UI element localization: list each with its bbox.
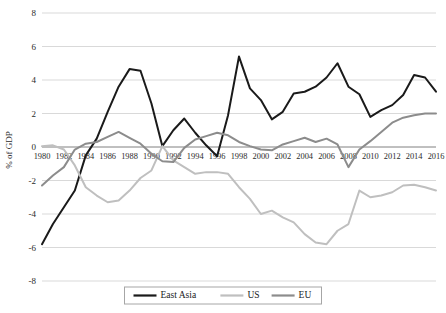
- x-tick-label: 2000: [253, 152, 270, 161]
- series-lines: [42, 57, 436, 245]
- legend-label-us: US: [247, 290, 259, 300]
- legend-label-eu: EU: [299, 290, 312, 300]
- y-tick-label: -2: [29, 176, 37, 186]
- chart-container: 86420-2-4-6-8 19801982198419861988199019…: [0, 0, 446, 313]
- y-tick-label: -4: [29, 209, 37, 219]
- y-tick-label: 2: [32, 109, 37, 119]
- x-tick-label: 2016: [428, 152, 445, 161]
- gridlines: [42, 13, 436, 281]
- x-tick-label: 2002: [274, 152, 291, 161]
- y-tick-label: 6: [32, 42, 37, 52]
- x-tick-label: 1986: [99, 152, 116, 161]
- x-tick-label: 2004: [296, 152, 314, 161]
- x-tick-label: 1980: [34, 152, 51, 161]
- y-axis-ticks: 86420-2-4-6-8: [29, 8, 37, 286]
- x-tick-label: 1998: [231, 152, 248, 161]
- y-tick-label: -6: [29, 243, 37, 253]
- y-tick-label: 0: [32, 142, 37, 152]
- x-tick-label: 2012: [384, 152, 401, 161]
- y-tick-label: 4: [32, 75, 37, 85]
- chart-legend: East AsiaUSEU: [125, 287, 322, 304]
- x-tick-label: 2014: [406, 152, 424, 161]
- line-chart: 86420-2-4-6-8 19801982198419861988199019…: [0, 0, 446, 313]
- x-axis-ticks: 1980198219841986198819901992199419961998…: [34, 152, 445, 161]
- legend-label-east-asia: East Asia: [161, 290, 197, 300]
- y-tick-label: -8: [29, 276, 37, 286]
- y-axis-title: % of GDP: [4, 131, 14, 169]
- x-tick-label: 1988: [121, 152, 138, 161]
- x-tick-label: 2010: [362, 152, 379, 161]
- x-tick-label: 1994: [187, 152, 205, 161]
- x-tick-label: 2006: [318, 152, 335, 161]
- y-tick-label: 8: [32, 8, 37, 18]
- series-line-eu: [42, 114, 436, 186]
- series-line-east-asia: [42, 57, 436, 245]
